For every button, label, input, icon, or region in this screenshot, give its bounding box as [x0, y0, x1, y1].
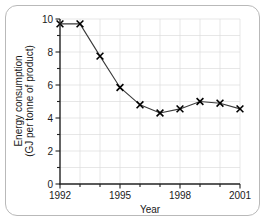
y-axis-title-line2: (GJ per tonne of product) — [24, 45, 35, 157]
line-chart: 10 8 6 4 2 0 1992 1995 1998 2001 Year En… — [0, 0, 267, 223]
y-tick-label: 2 — [47, 146, 53, 157]
y-tick-label: 4 — [47, 113, 53, 124]
y-tick-label: 6 — [47, 80, 53, 91]
y-tick-label: 10 — [42, 14, 54, 25]
y-tick-label: 8 — [47, 47, 53, 58]
chart-canvas: 10 8 6 4 2 0 1992 1995 1998 2001 Year En… — [0, 0, 267, 223]
y-axis-tick-labels: 10 8 6 4 2 0 — [42, 14, 54, 190]
x-axis-tick-labels: 1992 1995 1998 2001 — [49, 190, 252, 201]
x-axis-title: Year — [140, 204, 161, 215]
y-tick-label: 0 — [47, 179, 53, 190]
x-tick-label: 2001 — [229, 190, 252, 201]
x-tick-label: 1995 — [109, 190, 132, 201]
horizontal-gridlines — [60, 19, 240, 168]
x-tick-label: 1998 — [169, 190, 192, 201]
x-tick-label: 1992 — [49, 190, 72, 201]
y-axis-title-line1: Energy consumption — [13, 55, 24, 146]
